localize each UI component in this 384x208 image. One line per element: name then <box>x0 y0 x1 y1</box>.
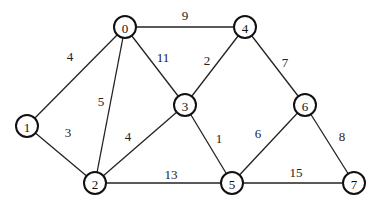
edge-0-1 <box>27 27 125 126</box>
node-label: 4 <box>242 21 249 36</box>
edge-weight-4-6: 7 <box>282 55 289 70</box>
node-2: 2 <box>84 172 106 194</box>
edge-3-5 <box>185 105 232 183</box>
edge-weight-0-3: 11 <box>157 50 170 65</box>
node-3: 3 <box>174 94 196 116</box>
edge-weight-0-2: 5 <box>98 94 105 109</box>
weighted-graph-diagram: 9451134132176158 01234567 <box>0 0 384 208</box>
node-label: 0 <box>122 21 129 36</box>
edge-weight-6-7: 8 <box>339 129 346 144</box>
edge-weight-3-4: 2 <box>204 53 211 68</box>
edge-3-4 <box>185 27 245 105</box>
node-label: 1 <box>24 120 31 135</box>
edge-weight-1-2: 3 <box>65 125 72 140</box>
edge-weight-0-1: 4 <box>67 49 74 64</box>
edge-1-2 <box>27 126 95 183</box>
edge-weight-5-7: 15 <box>290 165 303 180</box>
node-label: 2 <box>92 177 99 192</box>
node-label: 5 <box>229 177 236 192</box>
node-7: 7 <box>343 172 365 194</box>
edge-weight-2-5: 13 <box>165 167 178 182</box>
node-label: 6 <box>302 99 309 114</box>
node-label: 7 <box>351 177 358 192</box>
nodes-layer: 01234567 <box>16 16 365 194</box>
node-5: 5 <box>221 172 243 194</box>
edge-weight-5-6: 6 <box>255 126 262 141</box>
node-6: 6 <box>294 94 316 116</box>
edge-4-6 <box>245 27 305 105</box>
edge-weight-2-3: 4 <box>125 129 132 144</box>
node-0: 0 <box>114 16 136 38</box>
edge-weight-0-4: 9 <box>182 8 189 23</box>
edge-weight-3-5: 1 <box>216 131 223 146</box>
edge-0-3 <box>125 27 185 105</box>
edge-6-7 <box>305 105 354 183</box>
node-label: 3 <box>182 99 189 114</box>
node-1: 1 <box>16 115 38 137</box>
node-4: 4 <box>234 16 256 38</box>
